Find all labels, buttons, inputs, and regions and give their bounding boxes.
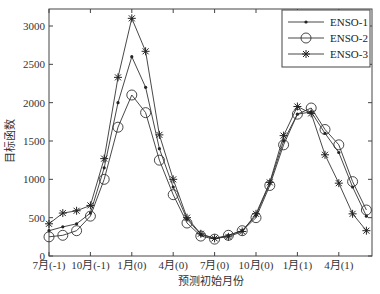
star-marker xyxy=(142,47,150,55)
line-chart: 050010001500200025003000 7月(-1)10月(-1)1月… xyxy=(0,0,380,294)
star-marker xyxy=(321,151,329,159)
y-tick-label: 1000 xyxy=(23,173,46,185)
star-marker xyxy=(169,175,177,183)
series-line xyxy=(49,95,366,239)
star-marker xyxy=(307,109,315,117)
star-marker xyxy=(224,233,232,241)
legend-label: ENSO-3 xyxy=(330,48,368,60)
star-marker xyxy=(211,234,219,242)
x-tick-label: 10月(-1) xyxy=(71,259,110,272)
dot-marker xyxy=(103,166,106,169)
star-marker xyxy=(362,227,370,235)
dot-marker xyxy=(172,185,175,188)
legend-label: ENSO-2 xyxy=(330,32,368,44)
star-marker xyxy=(349,210,357,218)
star-marker xyxy=(238,227,246,235)
dot-marker xyxy=(61,225,64,228)
star-marker xyxy=(155,131,163,139)
x-tick-label: 1月(0) xyxy=(117,259,147,272)
y-tick-label: 3000 xyxy=(23,20,46,32)
star-marker xyxy=(128,14,136,22)
star-marker xyxy=(197,230,205,238)
legend: ENSO-1ENSO-2ENSO-3 xyxy=(282,10,370,67)
dot-marker xyxy=(337,151,340,154)
x-tick-label: 4月(1) xyxy=(324,259,354,272)
series-enso-2 xyxy=(44,90,371,244)
x-tick-label: 7月(0) xyxy=(200,259,230,272)
star-marker xyxy=(252,210,260,218)
star-marker xyxy=(335,179,343,187)
x-axis-label: 预测初始月份 xyxy=(178,274,244,288)
x-tick-label: 7月(-1) xyxy=(33,259,66,272)
star-marker xyxy=(183,214,191,222)
dot-marker xyxy=(116,101,119,104)
legend-label: ENSO-1 xyxy=(330,16,368,28)
series-line xyxy=(49,57,366,239)
star-marker xyxy=(45,220,53,228)
y-axis-label: 目标函数 xyxy=(3,119,17,163)
star-marker xyxy=(280,132,288,140)
y-tick-label: 500 xyxy=(29,212,46,224)
star-marker xyxy=(302,50,310,58)
dot-marker xyxy=(158,147,161,150)
star-marker xyxy=(293,103,301,111)
y-tick-label: 2000 xyxy=(23,97,46,109)
star-marker xyxy=(59,209,67,217)
star-marker xyxy=(73,207,81,215)
dot-marker xyxy=(130,55,133,58)
y-tick-label: 2500 xyxy=(23,58,46,70)
dot-marker xyxy=(144,86,147,89)
star-marker xyxy=(266,178,274,186)
star-marker xyxy=(86,201,94,209)
star-marker xyxy=(114,73,122,81)
dot-marker xyxy=(75,222,78,225)
x-tick-label: 4月(0) xyxy=(159,259,189,272)
star-marker xyxy=(100,155,108,163)
dot-marker xyxy=(304,20,307,23)
x-tick-label: 10月(0) xyxy=(239,259,274,272)
series-enso-1 xyxy=(47,55,368,240)
y-tick-label: 1500 xyxy=(23,135,46,147)
x-tick-label: 1月(1) xyxy=(283,259,313,272)
